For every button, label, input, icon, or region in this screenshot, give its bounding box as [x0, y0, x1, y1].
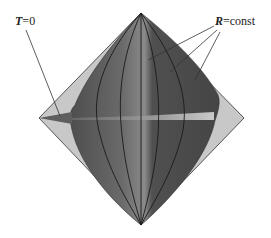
t-zero-label: T=0: [15, 14, 35, 29]
r-value: const: [230, 14, 255, 28]
r-equals: =: [223, 14, 230, 28]
diagram-canvas: [0, 0, 271, 238]
r-const-leader-3: [195, 32, 220, 80]
r-const-label: R=const: [215, 14, 255, 29]
t-value: 0: [29, 14, 35, 28]
r-variable: R: [215, 14, 223, 28]
t-zero-leader-line: [26, 30, 60, 116]
